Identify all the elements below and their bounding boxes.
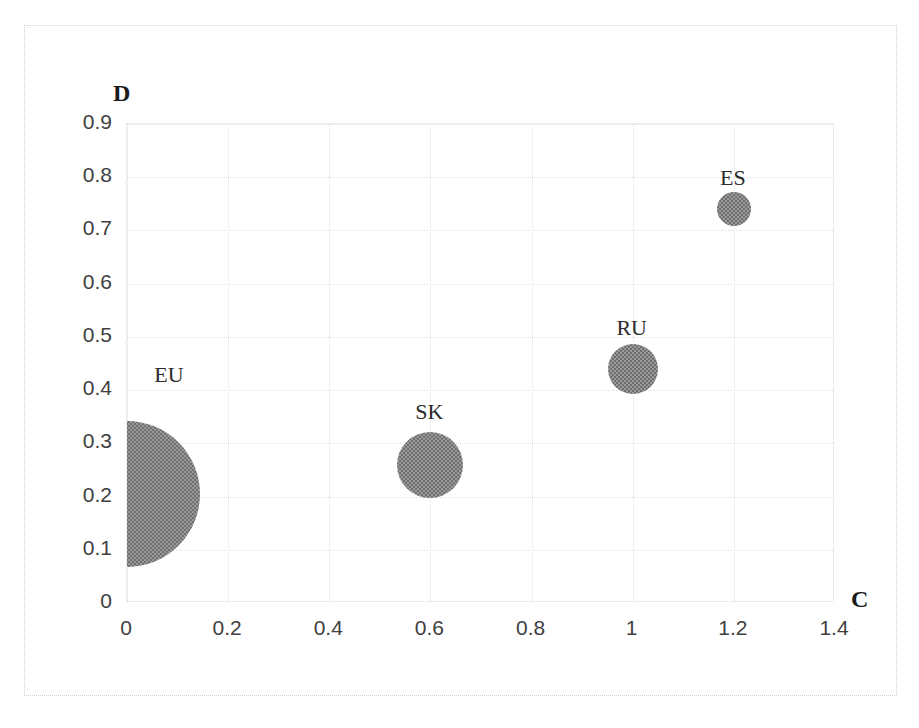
y-axis-title: D [113, 80, 130, 107]
point-label-sk: SK [394, 399, 464, 425]
x-tick-label: 0.8 [491, 616, 571, 640]
x-axis-title: C [851, 586, 868, 613]
y-tick-label: 0.8 [60, 163, 112, 187]
bubble-eu[interactable] [126, 421, 200, 567]
x-tick-label: 1.2 [693, 616, 773, 640]
bubble-ru[interactable] [608, 344, 658, 394]
y-tick-label: 0.5 [60, 323, 112, 347]
point-label-es: ES [698, 165, 768, 191]
x-tick-label: 0 [86, 616, 166, 640]
bubble-sk[interactable] [397, 432, 463, 498]
plot-area [126, 123, 834, 602]
chart-canvas: D C 00.10.20.30.40.50.60.70.80.9 00.20.4… [0, 0, 919, 728]
y-tick-label: 0 [60, 589, 112, 613]
bubble-series [127, 124, 833, 601]
x-tick-label: 1 [592, 616, 672, 640]
y-tick-label: 0.1 [60, 536, 112, 560]
point-label-eu: EU [134, 362, 204, 388]
y-tick-label: 0.7 [60, 216, 112, 240]
y-tick-label: 0.9 [60, 110, 112, 134]
y-tick-label: 0.3 [60, 429, 112, 453]
x-tick-label: 0.2 [187, 616, 267, 640]
y-tick-label: 0.6 [60, 270, 112, 294]
x-tick-label: 0.6 [389, 616, 469, 640]
point-label-ru: RU [597, 315, 667, 341]
y-tick-label: 0.4 [60, 376, 112, 400]
y-tick-label: 0.2 [60, 483, 112, 507]
x-tick-label: 0.4 [288, 616, 368, 640]
x-tick-label: 1.4 [794, 616, 874, 640]
bubble-es[interactable] [717, 192, 751, 226]
